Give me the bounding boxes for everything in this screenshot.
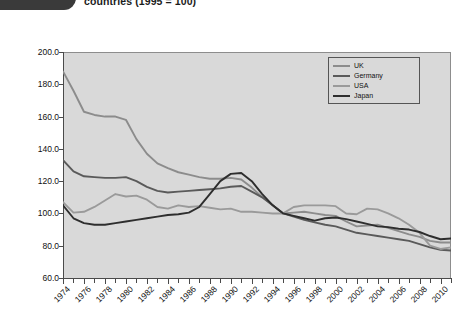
x-axis-tick-mark (94, 279, 95, 283)
x-axis-tick-mark (220, 279, 221, 283)
legend-color-swatch (333, 95, 350, 98)
x-axis-tick-mark (346, 279, 347, 283)
legend-color-swatch (333, 75, 350, 78)
x-axis-tick-label: 1990 (216, 284, 240, 308)
figure-header: countries (1995 = 100) (0, 0, 469, 40)
x-axis-tick-mark (409, 279, 410, 283)
x-axis-tick-mark (283, 279, 284, 283)
legend-item-label: Japan (354, 91, 373, 101)
x-axis-tick-mark (262, 279, 263, 283)
x-axis-tick-mark (136, 279, 137, 283)
x-axis-tick-label: 1992 (237, 284, 261, 308)
x-axis-tick-mark (430, 279, 431, 283)
x-axis-tick-mark (157, 279, 158, 283)
x-axis-tick-mark (388, 279, 389, 283)
x-axis-tick-label: 2008 (405, 284, 429, 308)
page-title: countries (1995 = 100) (84, 0, 464, 8)
series-line-germany (63, 160, 451, 250)
x-axis-tick-label: 2006 (384, 284, 408, 308)
legend-item: Japan (333, 91, 415, 101)
x-axis-tick-mark (73, 279, 74, 283)
x-axis-tick-mark (367, 279, 368, 283)
legend-item-label: Germany (354, 71, 383, 81)
x-axis-tick-mark (178, 279, 179, 283)
x-axis-tick-label: 1998 (300, 284, 324, 308)
line-chart: 200.0180.0160.0140.0120.0100.080.060.0 1… (10, 43, 459, 288)
figure-number-badge (0, 0, 76, 10)
x-axis-tick-label: 2002 (342, 284, 366, 308)
x-axis-tick-mark (304, 279, 305, 283)
x-axis-tick-mark (451, 279, 452, 283)
x-axis-tick-label: 1974 (48, 284, 72, 308)
x-axis-tick-label: 1988 (195, 284, 219, 308)
x-axis-labels: 1974197619781980198219841986198819901992… (63, 284, 463, 320)
x-axis-tick-mark (325, 279, 326, 283)
x-axis-tick-label: 1976 (69, 284, 93, 308)
legend-color-swatch (333, 85, 350, 88)
x-axis-tick-label: 2004 (363, 284, 387, 308)
x-axis-tick-label: 1994 (258, 284, 282, 308)
x-axis-tick-mark (241, 279, 242, 283)
legend-color-swatch (333, 65, 350, 68)
y-axis-ticks (10, 52, 64, 278)
x-axis-tick-mark (199, 279, 200, 283)
legend-item: USA (333, 81, 415, 91)
legend-item-label: USA (354, 81, 368, 91)
x-axis-tick-label: 1996 (279, 284, 303, 308)
x-axis-tick-label: 2010 (426, 284, 450, 308)
chart-legend: UKGermanyUSAJapan (328, 57, 420, 104)
x-axis-tick-mark (115, 279, 116, 283)
x-axis-tick-label: 1978 (90, 284, 114, 308)
legend-item: UK (333, 61, 415, 71)
legend-item-label: UK (354, 61, 364, 71)
x-axis-tick-label: 1986 (174, 284, 198, 308)
legend-item: Germany (333, 71, 415, 81)
x-axis-tick-label: 2000 (321, 284, 345, 308)
x-axis-tick-label: 1984 (153, 284, 177, 308)
x-axis-tick-label: 1980 (111, 284, 135, 308)
x-axis-tick-label: 1982 (132, 284, 156, 308)
